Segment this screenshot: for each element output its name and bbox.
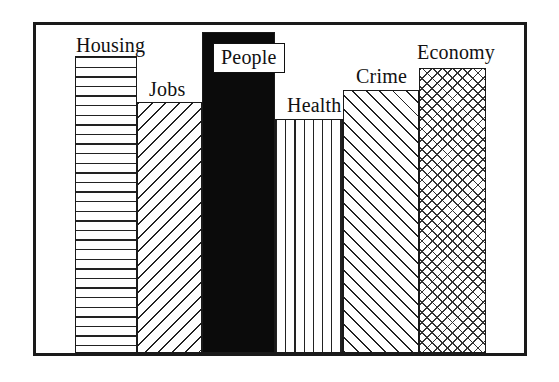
bar-label-jobs: Jobs	[149, 79, 185, 99]
bar-economy[interactable]	[419, 68, 486, 353]
bar-health[interactable]	[275, 119, 343, 353]
bar-people[interactable]	[202, 32, 275, 353]
bar-label-housing: Housing	[76, 35, 145, 55]
bar-label-economy: Economy	[417, 42, 495, 62]
bar-jobs[interactable]	[137, 102, 202, 353]
bar-crime[interactable]	[343, 90, 419, 353]
bars-layer: Housing Jobs People Health Crime Economy	[36, 25, 524, 353]
bar-housing[interactable]	[75, 56, 137, 353]
bar-chart: Housing Jobs People Health Crime Economy	[0, 0, 559, 382]
bar-label-health: Health	[287, 95, 342, 115]
bar-label-people: People	[213, 43, 285, 73]
bar-label-crime: Crime	[356, 66, 407, 86]
